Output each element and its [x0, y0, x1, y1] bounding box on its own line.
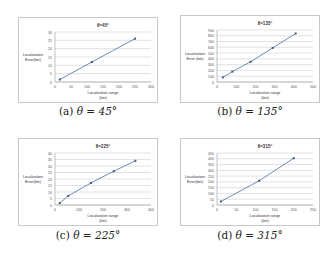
chart-title: θ=45°: [97, 23, 109, 28]
x-tick-label: 300: [148, 85, 154, 89]
series-line: [60, 39, 135, 80]
y-tick-label: 800: [208, 34, 214, 38]
y-tick-label: 450: [208, 152, 214, 156]
x-axis-unit: (km): [99, 96, 107, 100]
y-axis-label: Localization: [23, 53, 43, 57]
y-tick-label: 400: [208, 157, 214, 161]
y-tick-label: 30: [48, 165, 52, 169]
x-tick-label: 100: [233, 85, 239, 89]
y-tick-label: 20: [48, 47, 52, 51]
x-tick-label: 0: [216, 208, 218, 212]
x-tick-label: 100: [76, 208, 82, 212]
y-tick-label: 0: [212, 81, 214, 85]
y-tick-label: 20: [48, 178, 52, 182]
caption-a: (a) θ = 45°: [8, 105, 168, 117]
caption-d: (d) θ = 315°: [170, 229, 330, 241]
data-point-marker: [293, 157, 295, 159]
x-tick-label: 50: [234, 208, 238, 212]
y-tick-label: 25: [48, 39, 52, 43]
x-tick-label: 100: [84, 85, 90, 89]
chart-svg: θ=225°05101520253035400100200300400Local…: [19, 139, 159, 227]
y-tick-label: 25: [48, 171, 52, 175]
x-tick-label: 400: [291, 85, 297, 89]
data-point-marker: [90, 182, 92, 184]
x-tick-label: 200: [100, 208, 106, 212]
x-tick-label: 50: [69, 85, 73, 89]
chart-title: θ=315°: [258, 144, 273, 149]
x-tick-label: 300: [124, 208, 130, 212]
data-point-marker: [231, 71, 233, 73]
y-axis-label-2: Error (km): [186, 57, 204, 61]
x-tick-label: 100: [252, 208, 258, 212]
data-point-marker: [91, 61, 93, 63]
data-point-marker: [134, 38, 136, 40]
x-tick-label: 500: [310, 85, 316, 89]
y-tick-label: 700: [208, 40, 214, 44]
x-axis-label: Localization range: [250, 91, 281, 95]
chart-title: θ=225°: [96, 144, 111, 149]
y-tick-label: 500: [208, 52, 214, 56]
data-point-marker: [250, 61, 252, 63]
series-line: [60, 161, 136, 203]
y-tick-label: 200: [208, 69, 214, 73]
chart-panel-c: θ=225°05101520253035400100200300400Local…: [18, 138, 158, 226]
data-point-marker: [59, 79, 61, 81]
caption-c: (c) θ = 225°: [8, 229, 168, 241]
data-point-marker: [222, 76, 224, 78]
x-axis-unit: (km): [261, 96, 269, 100]
y-tick-label: 5: [50, 72, 52, 76]
y-tick-label: 100: [208, 75, 214, 79]
x-tick-label: 250: [310, 208, 316, 212]
x-tick-label: 300: [272, 85, 278, 89]
y-axis-label-2: Error(km): [25, 180, 42, 184]
caption-text: θ = 135°: [236, 105, 283, 117]
chart-svg: θ=45°051015202530050100150200250300Local…: [19, 18, 159, 104]
y-tick-label: 300: [208, 169, 214, 173]
x-tick-label: 0: [54, 85, 56, 89]
series-line: [223, 33, 296, 77]
y-axis-label-2: Error(km): [187, 180, 204, 184]
y-tick-label: 400: [208, 57, 214, 61]
data-point-marker: [59, 202, 61, 204]
x-tick-label: 200: [116, 85, 122, 89]
x-tick-label: 200: [291, 208, 297, 212]
data-point-marker: [113, 170, 115, 172]
caption-text: θ = 45°: [77, 105, 117, 117]
x-axis-unit: (km): [99, 219, 107, 223]
y-axis-label: Localization: [185, 175, 205, 179]
x-tick-label: 0: [216, 85, 218, 89]
y-tick-label: 50: [210, 198, 214, 202]
y-tick-label: 5: [50, 197, 52, 201]
x-tick-label: 250: [132, 85, 138, 89]
caption-label: (a): [59, 105, 73, 117]
chart-panel-a: θ=45°051015202530050100150200250300Local…: [18, 17, 158, 103]
x-axis-label: Localization range: [88, 91, 119, 95]
x-tick-label: 200: [252, 85, 258, 89]
caption-text: θ = 315°: [236, 229, 283, 241]
y-tick-label: 600: [208, 46, 214, 50]
y-axis-label: Localization: [23, 175, 43, 179]
y-axis-label: Localization: [185, 52, 205, 56]
y-tick-label: 15: [48, 56, 52, 60]
y-tick-label: 900: [208, 29, 214, 33]
x-tick-label: 0: [54, 208, 56, 212]
caption-label: (d): [217, 229, 232, 241]
y-tick-label: 250: [208, 175, 214, 179]
data-point-marker: [272, 47, 274, 49]
chart-panel-b: θ=135°0100200300400500600700800900010020…: [180, 15, 320, 103]
y-tick-label: 15: [48, 184, 52, 188]
chart-svg: θ=135°0100200300400500600700800900010020…: [181, 16, 321, 104]
caption-label: (c): [56, 229, 70, 241]
y-tick-label: 200: [208, 180, 214, 184]
caption-text: θ = 225°: [73, 229, 120, 241]
y-tick-label: 10: [48, 64, 52, 68]
y-tick-label: 0: [212, 204, 214, 208]
y-tick-label: 350: [208, 163, 214, 167]
y-tick-label: 0: [50, 204, 52, 208]
x-tick-label: 150: [100, 85, 106, 89]
y-axis-label-2: Error(km): [25, 58, 42, 62]
y-tick-label: 100: [208, 192, 214, 196]
y-tick-label: 0: [50, 81, 52, 85]
x-axis-label: Localization range: [88, 214, 119, 218]
data-point-marker: [258, 180, 260, 182]
